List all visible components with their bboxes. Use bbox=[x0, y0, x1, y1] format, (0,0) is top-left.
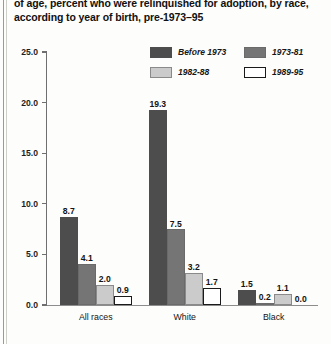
bar-value-label: 4.1 bbox=[81, 253, 93, 263]
bar-value-label: 7.5 bbox=[170, 219, 182, 229]
bar: 0.2 bbox=[256, 303, 274, 305]
chart-title-line-1: of age, percent who were relinquished fo… bbox=[14, 0, 314, 11]
x-axis-category-label: Black bbox=[263, 312, 285, 322]
y-axis-tick-label: 0.0 bbox=[26, 300, 38, 310]
y-axis-tick bbox=[42, 254, 47, 255]
bar-value-label: 2.0 bbox=[99, 274, 111, 284]
y-axis-tick-label: 5.0 bbox=[26, 249, 38, 259]
x-axis-category-label: White bbox=[174, 312, 197, 322]
bar-value-label: 0.9 bbox=[117, 285, 129, 295]
bar-value-label: 1.1 bbox=[277, 283, 289, 293]
chart-title-line-2: according to year of birth, pre-1973–95 bbox=[14, 11, 314, 25]
bar: 19.3 bbox=[149, 110, 167, 305]
x-axis-category-label: All races bbox=[79, 312, 113, 322]
bar-group-all-races: 8.74.12.00.9All races bbox=[60, 52, 138, 305]
page-edge-rule-secondary bbox=[6, 0, 7, 344]
bar-value-label: 3.2 bbox=[188, 262, 200, 272]
bar-value-label: 0.2 bbox=[259, 292, 271, 302]
bar: 1.5 bbox=[238, 290, 256, 305]
bar: 0.9 bbox=[114, 296, 132, 305]
y-axis-tick bbox=[42, 153, 47, 154]
bar-value-label: 8.7 bbox=[63, 206, 75, 216]
bar: 1.7 bbox=[203, 288, 221, 305]
y-axis-tick-label: 15.0 bbox=[21, 148, 38, 158]
chart-title: of age, percent who were relinquished fo… bbox=[14, 0, 314, 24]
bar-value-label: 1.7 bbox=[206, 277, 218, 287]
bar: 1.1 bbox=[274, 294, 292, 305]
page-edge-rule bbox=[3, 0, 4, 344]
y-axis-tick bbox=[42, 304, 47, 305]
bar: 7.5 bbox=[167, 229, 185, 305]
bar: 2.0 bbox=[96, 285, 114, 305]
y-axis-tick-label: 25.0 bbox=[21, 47, 38, 57]
chart-plot-area: 0.05.010.015.020.025.08.74.12.00.9All ra… bbox=[46, 52, 318, 305]
y-axis-line bbox=[46, 52, 47, 305]
bar-value-label: 19.3 bbox=[149, 99, 166, 109]
bar: 3.2 bbox=[185, 273, 203, 305]
bar-value-label: 1.5 bbox=[241, 279, 253, 289]
bar-group-black: 1.50.21.10.0Black bbox=[238, 52, 316, 305]
y-axis-tick bbox=[42, 203, 47, 204]
bar: 4.1 bbox=[78, 264, 96, 305]
bar-group-white: 19.37.53.21.7White bbox=[149, 52, 227, 305]
y-axis-tick bbox=[42, 102, 47, 103]
bar-value-label: 0.0 bbox=[295, 294, 307, 304]
y-axis-tick bbox=[42, 51, 47, 52]
y-axis-tick-label: 10.0 bbox=[21, 199, 38, 209]
y-axis-tick-label: 20.0 bbox=[21, 98, 38, 108]
bar: 8.7 bbox=[60, 217, 78, 305]
